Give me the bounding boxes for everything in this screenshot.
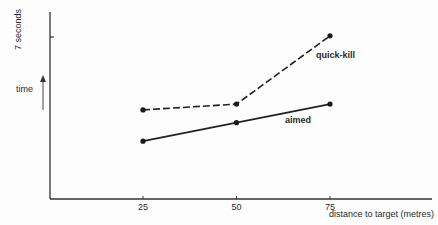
x-tick-label: 25 [138,202,148,212]
line-chart: 255075 7 seconds time distance to target… [0,0,438,225]
arrowhead-icon [40,75,46,82]
data-point [234,120,239,125]
data-point [140,107,145,112]
data-point [327,33,332,38]
y-tick-label: 7 seconds [13,8,23,50]
data-point [327,102,332,107]
y-axis-label: time [16,84,33,94]
data-point [140,139,145,144]
x-axis-label: distance to target (metres) [329,209,434,219]
series-group [140,33,332,143]
series-line-quick-kill [143,36,330,110]
x-tick-label: 50 [232,202,242,212]
data-point [234,102,239,107]
series-label-aimed: aimed [285,115,311,125]
series-label-quick-kill: quick-kill [316,50,355,60]
